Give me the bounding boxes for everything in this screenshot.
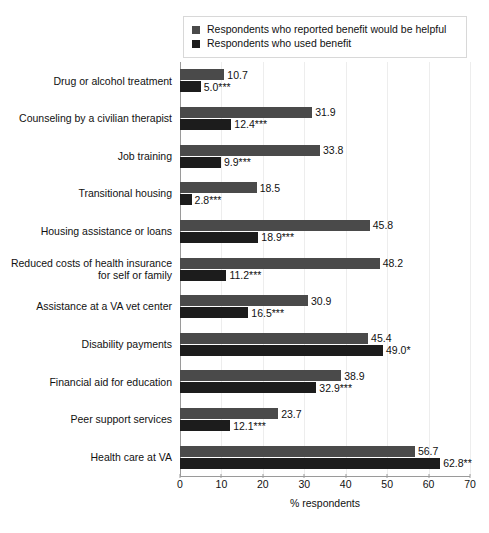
bar-row: 5.0***	[180, 81, 470, 92]
bar-value-label: 9.9***	[221, 156, 251, 168]
bar-used	[180, 194, 192, 205]
x-tick-label: 70	[464, 478, 476, 490]
bar-row: 62.8**	[180, 458, 470, 469]
bar-used	[180, 458, 440, 469]
bar-row: 48.2	[180, 258, 470, 269]
bar-row: 23.7	[180, 408, 470, 419]
bar-row: 11.2***	[180, 270, 470, 281]
legend-swatch-used	[192, 40, 200, 48]
bar-value-label: 62.8**	[440, 457, 472, 469]
bar-chart: Respondents who reported benefit would b…	[0, 0, 489, 533]
x-axis-label: % respondents	[180, 497, 470, 509]
category-label: Housing assistance or loans	[0, 225, 172, 238]
bar-value-label: 10.7	[224, 69, 247, 81]
bar-value-label: 45.4	[368, 332, 391, 344]
bar-row: 2.8***	[180, 194, 470, 205]
bar-row: 10.7	[180, 69, 470, 80]
category-label: Job training	[0, 150, 172, 163]
bar-helpful	[180, 370, 341, 381]
bar-used	[180, 307, 248, 318]
bar-helpful	[180, 446, 415, 457]
bar-group: Housing assistance or loans45.818.9***	[180, 220, 470, 243]
bar-used	[180, 81, 201, 92]
bar-used	[180, 382, 316, 393]
category-label: Health care at VA	[0, 451, 172, 464]
bar-row: 56.7	[180, 446, 470, 457]
bar-group: Reduced costs of health insurance for se…	[180, 258, 470, 281]
bar-row: 38.9	[180, 370, 470, 381]
bar-row: 32.9***	[180, 382, 470, 393]
bar-value-label: 23.7	[278, 408, 301, 420]
bar-used	[180, 119, 231, 130]
category-label: Financial aid for education	[0, 376, 172, 389]
x-tick-label: 10	[216, 478, 228, 490]
bar-used	[180, 157, 221, 168]
gridline	[470, 62, 471, 476]
bar-used	[180, 270, 226, 281]
legend-item-helpful: Respondents who reported benefit would b…	[192, 23, 458, 36]
bar-row: 12.4***	[180, 119, 470, 130]
bar-value-label: 38.9	[341, 370, 364, 382]
bar-value-label: 30.9	[308, 295, 331, 307]
bar-row: 45.8	[180, 220, 470, 231]
legend-label-helpful: Respondents who reported benefit would b…	[207, 23, 446, 36]
bar-group: Assistance at a VA vet center30.916.5***	[180, 295, 470, 318]
plot-area: Drug or alcohol treatment10.75.0***Couns…	[180, 62, 470, 476]
bar-row: 33.8	[180, 145, 470, 156]
bar-row: 12.1***	[180, 420, 470, 431]
category-label: Peer support services	[0, 413, 172, 426]
bar-value-label: 16.5***	[248, 307, 284, 319]
bar-helpful	[180, 408, 278, 419]
x-tick-label: 20	[257, 478, 269, 490]
legend-item-used: Respondents who used benefit	[192, 37, 458, 50]
bar-value-label: 18.9***	[258, 231, 294, 243]
bar-helpful	[180, 333, 368, 344]
bar-row: 30.9	[180, 295, 470, 306]
x-tick-label: 30	[298, 478, 310, 490]
bar-used	[180, 232, 258, 243]
category-label: Counseling by a civilian therapist	[0, 112, 172, 125]
bar-value-label: 18.5	[257, 182, 280, 194]
bar-used	[180, 345, 383, 356]
bar-helpful	[180, 258, 380, 269]
bar-helpful	[180, 220, 370, 231]
legend-label-used: Respondents who used benefit	[207, 37, 351, 50]
bar-used	[180, 420, 230, 431]
bar-row: 18.9***	[180, 232, 470, 243]
chart-legend: Respondents who reported benefit would b…	[183, 16, 467, 58]
bar-row: 16.5***	[180, 307, 470, 318]
category-label: Disability payments	[0, 338, 172, 351]
bar-value-label: 12.1***	[230, 420, 266, 432]
x-tick-label: 40	[340, 478, 352, 490]
bar-group: Financial aid for education38.932.9***	[180, 370, 470, 393]
category-label: Reduced costs of health insurance for se…	[0, 257, 172, 282]
x-tick-label: 0	[177, 478, 183, 490]
bar-row: 31.9	[180, 107, 470, 118]
bar-helpful	[180, 107, 312, 118]
bar-helpful	[180, 182, 257, 193]
bar-group: Transitional housing18.52.8***	[180, 182, 470, 205]
bar-group: Disability payments45.449.0*	[180, 333, 470, 356]
bar-row: 18.5	[180, 182, 470, 193]
bar-row: 9.9***	[180, 157, 470, 168]
category-label: Transitional housing	[0, 187, 172, 200]
x-axis-line	[180, 476, 470, 477]
bar-value-label: 31.9	[312, 106, 335, 118]
legend-swatch-helpful	[192, 26, 200, 34]
bar-value-label: 56.7	[415, 445, 438, 457]
bar-value-label: 45.8	[370, 219, 393, 231]
bar-value-label: 49.0*	[383, 344, 411, 356]
bar-value-label: 12.4***	[231, 118, 267, 130]
bar-value-label: 5.0***	[201, 81, 231, 93]
bar-helpful	[180, 295, 308, 306]
bar-group: Peer support services23.712.1***	[180, 408, 470, 431]
bar-value-label: 48.2	[380, 257, 403, 269]
bar-helpful	[180, 145, 320, 156]
bar-value-label: 32.9***	[316, 382, 352, 394]
bar-value-label: 2.8***	[192, 194, 222, 206]
bar-value-label: 11.2***	[226, 269, 261, 281]
bar-row: 45.4	[180, 333, 470, 344]
x-tick-label: 60	[423, 478, 435, 490]
x-axis-ticks: 010203040506070	[180, 478, 470, 494]
bar-row: 49.0*	[180, 345, 470, 356]
